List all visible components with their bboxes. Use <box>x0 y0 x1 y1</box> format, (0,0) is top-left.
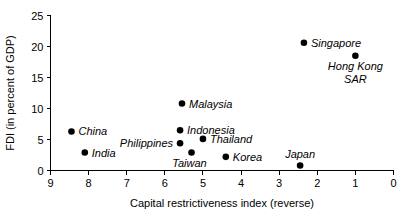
data-point <box>82 149 89 156</box>
data-point <box>223 154 230 161</box>
x-tick-label: 4 <box>238 177 244 189</box>
data-point-label: Hong KongSAR <box>328 60 384 85</box>
data-point <box>301 39 308 46</box>
data-point <box>297 162 304 169</box>
x-tick-label: 5 <box>200 177 206 189</box>
data-point <box>68 128 75 135</box>
data-point <box>352 53 359 60</box>
x-tick-label: 6 <box>162 177 168 189</box>
x-tick-label: 7 <box>124 177 130 189</box>
y-tick-label: 15 <box>31 72 43 84</box>
y-tick-label: 25 <box>31 10 43 22</box>
data-point-label: India <box>92 147 116 159</box>
data-point-label: Japan <box>284 148 315 160</box>
x-tick-label: 8 <box>86 177 92 189</box>
y-tick-label: 20 <box>31 41 43 53</box>
x-axis-title: Capital restrictiveness index (reverse) <box>130 197 314 209</box>
data-point-label: Korea <box>233 151 262 163</box>
plot-area: 05101520259876543210Capital restrictiven… <box>0 0 411 218</box>
scatter-chart: 05101520259876543210Capital restrictiven… <box>0 0 411 218</box>
data-point-label: Taiwan <box>172 157 206 169</box>
data-point-label: Malaysia <box>189 98 232 110</box>
x-tick-label: 1 <box>352 177 358 189</box>
x-tick-label: 0 <box>390 177 396 189</box>
data-point <box>179 100 186 107</box>
y-tick-label: 5 <box>37 134 43 146</box>
data-point <box>188 149 195 156</box>
data-point <box>177 140 184 147</box>
data-point-label: Singapore <box>311 37 361 49</box>
x-tick-label: 9 <box>47 177 53 189</box>
data-point-label: China <box>78 125 107 137</box>
x-tick-label: 3 <box>276 177 282 189</box>
y-tick-label: 10 <box>31 103 43 115</box>
x-tick-label: 2 <box>314 177 320 189</box>
y-tick-label: 0 <box>37 165 43 177</box>
data-point-label: Philippines <box>120 137 174 149</box>
data-point <box>200 136 207 143</box>
data-point-label: Thailand <box>210 133 253 145</box>
data-point <box>177 127 184 134</box>
y-axis-title: FDI (in percent of GDP) <box>4 35 16 151</box>
